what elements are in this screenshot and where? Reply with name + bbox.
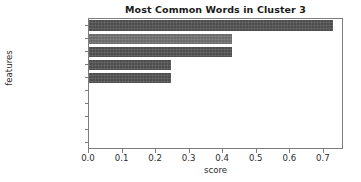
x-tick-mark xyxy=(323,149,324,153)
bar-memori xyxy=(89,47,232,57)
y-tick-mark xyxy=(85,77,89,78)
y-tick-mark xyxy=(85,129,89,130)
chart-figure: Most Common Words in Cluster 3 features … xyxy=(0,0,361,182)
bar-row xyxy=(89,71,342,84)
bar-util xyxy=(89,60,171,70)
y-tick-mark xyxy=(85,116,89,117)
y-tick-mark xyxy=(85,38,89,39)
bar-state xyxy=(89,73,171,83)
y-axis-label: features xyxy=(4,23,14,113)
bar-row xyxy=(89,32,342,45)
x-tick-mark xyxy=(289,149,290,153)
y-tick-mark xyxy=(85,103,89,104)
bar-row xyxy=(89,45,342,58)
x-tick-mark xyxy=(222,149,223,153)
x-tick-mark xyxy=(88,149,89,153)
plot-area xyxy=(88,18,343,149)
y-tick-mark xyxy=(85,25,89,26)
x-tick-label: 0.7 xyxy=(303,153,343,163)
bar-row xyxy=(89,98,342,111)
bar-row xyxy=(89,111,342,124)
x-tick-mark xyxy=(155,149,156,153)
y-tick-mark xyxy=(85,64,89,65)
y-tick-mark xyxy=(85,51,89,52)
x-tick-mark xyxy=(189,149,190,153)
bar-row xyxy=(89,58,342,71)
x-tick-mark xyxy=(256,149,257,153)
bar-row xyxy=(89,137,342,150)
bar-warn xyxy=(89,34,232,44)
bar-row xyxy=(89,85,342,98)
y-tick-mark xyxy=(85,90,89,91)
bar-emprecord xyxy=(89,20,333,30)
x-tick-mark xyxy=(122,149,123,153)
chart-title: Most Common Words in Cluster 3 xyxy=(88,4,343,15)
bar-row xyxy=(89,124,342,137)
x-axis-label: score xyxy=(88,165,343,175)
y-tick-mark xyxy=(85,142,89,143)
bar-row xyxy=(89,19,342,32)
